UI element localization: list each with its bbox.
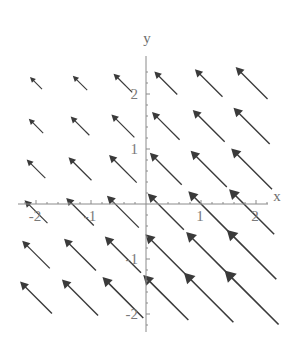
x-tick-label: -1	[84, 208, 97, 224]
y-tick-label: 1	[131, 141, 139, 157]
y-tick-label: -1	[126, 251, 139, 267]
x-axis-label: x	[273, 188, 281, 204]
y-axis-label: y	[143, 30, 151, 46]
y-tick-label: -2	[126, 306, 139, 322]
x-tick-label: 1	[196, 208, 204, 224]
x-tick-label: 2	[251, 208, 259, 224]
x-tick-label: -2	[29, 208, 42, 224]
y-tick-label: 2	[131, 86, 139, 102]
plot-canvas: x y -2-112-2-112	[0, 0, 298, 342]
vector-field-plot: x y -2-112-2-112	[0, 0, 298, 342]
